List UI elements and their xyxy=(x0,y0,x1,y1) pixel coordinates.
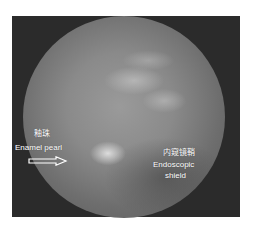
enamel-pearl-label-cn: 釉珠 xyxy=(34,129,50,138)
arrow-right-icon xyxy=(28,156,68,166)
endoscopic-shield-label-en-2: shield xyxy=(165,171,186,180)
endoscopic-shield-label-cn: 内窥镜鞘 xyxy=(163,148,195,157)
enamel-pearl-label-en: Enamel pearl xyxy=(15,143,62,152)
endoscopic-shield-label-en-1: Endoscopic xyxy=(153,160,194,169)
endoscope-view xyxy=(23,16,225,218)
